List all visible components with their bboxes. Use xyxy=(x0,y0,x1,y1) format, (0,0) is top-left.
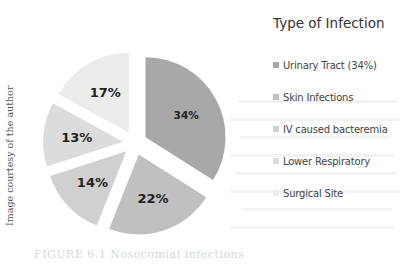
legend-label: Skin Infections xyxy=(283,92,353,103)
slice-data-label: 22% xyxy=(137,191,168,206)
legend-label: Lower Respiratory xyxy=(283,156,370,167)
slice-data-label: 13% xyxy=(61,130,92,145)
legend-item-urinary-tract: Urinary Tract (34%) xyxy=(273,58,377,72)
image-credit: Image courtesy of the author xyxy=(4,86,15,226)
legend-swatch xyxy=(273,190,279,196)
legend-title: Type of Infection xyxy=(273,15,384,31)
legend-label: Urinary Tract (34%) xyxy=(283,60,377,71)
slice-data-label: 34% xyxy=(174,109,200,121)
slice-data-label: 17% xyxy=(90,85,121,100)
slice-data-label: 14% xyxy=(77,175,108,190)
legend-label: IV caused bacteremia xyxy=(283,124,388,135)
bleed-through-line xyxy=(236,172,396,175)
legend-swatch xyxy=(273,126,279,132)
bleed-through-line xyxy=(240,136,390,139)
bleed-through-line xyxy=(242,208,392,211)
legend-swatch xyxy=(273,94,279,100)
legend-item-skin-infections: Skin Infections xyxy=(273,90,353,104)
figure-caption: FIGURE 6.1 Nosocomial infections xyxy=(34,248,244,261)
legend-item-lower-respiratory: Lower Respiratory xyxy=(273,154,370,168)
legend-swatch xyxy=(273,62,279,68)
pie-chart: 34%22%14%13%17% xyxy=(0,0,260,245)
legend-item-surgical-site: Surgical Site xyxy=(273,186,343,200)
legend-item-iv-bacteremia: IV caused bacteremia xyxy=(273,122,388,136)
legend-label: Surgical Site xyxy=(283,188,343,199)
legend-swatch xyxy=(273,158,279,164)
